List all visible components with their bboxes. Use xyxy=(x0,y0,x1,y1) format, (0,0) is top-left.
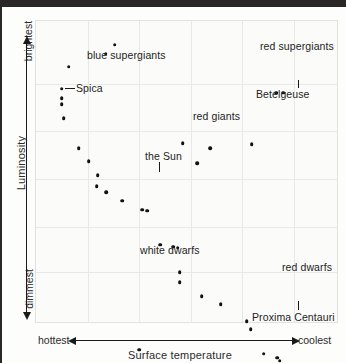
annotation-leader-line xyxy=(159,162,160,172)
x-axis-arrow-line xyxy=(75,340,293,341)
data-point xyxy=(145,209,149,213)
gridline-vertical xyxy=(88,21,89,322)
data-point xyxy=(200,294,204,298)
gridline-vertical xyxy=(294,21,295,322)
x-axis-arrow-head-left xyxy=(68,337,76,345)
annotation-label: red giants xyxy=(193,110,240,122)
data-point xyxy=(60,87,64,91)
data-point xyxy=(195,161,199,165)
data-point xyxy=(137,348,141,352)
gridline-vertical xyxy=(242,21,243,322)
scatter-plot-area: blue supergiantsSpicared giantsthe Sunwh… xyxy=(35,20,338,323)
data-point xyxy=(95,184,99,188)
data-point xyxy=(278,359,282,363)
data-point xyxy=(87,159,91,163)
data-point xyxy=(121,199,125,203)
data-point xyxy=(249,327,253,331)
data-point xyxy=(60,103,64,107)
x-axis-title: Surface temperature xyxy=(35,349,325,361)
data-point xyxy=(140,208,144,212)
data-point xyxy=(96,173,100,177)
annotation-label: red dwarfs xyxy=(282,261,332,273)
data-point xyxy=(113,43,117,47)
data-point xyxy=(245,319,249,323)
data-point xyxy=(219,302,223,306)
annotation-leader-line xyxy=(298,301,299,310)
data-point xyxy=(178,271,182,275)
hr-diagram-figure: Luminosity brightest dimmest Surface tem… xyxy=(2,7,346,363)
x-axis-left-label: hottest xyxy=(38,334,70,346)
gridline-horizontal xyxy=(36,227,337,228)
y-axis-arrow-line xyxy=(26,43,27,313)
data-point xyxy=(250,142,254,146)
annotation-leader-line xyxy=(298,80,299,88)
x-axis-arrow-head-right xyxy=(292,337,300,345)
y-axis-bottom-label: dimmest xyxy=(23,259,35,319)
annotation-label: blue supergiants xyxy=(87,49,166,61)
annotation-label: red supergiants xyxy=(260,40,334,52)
data-point xyxy=(181,141,185,145)
data-point xyxy=(262,352,266,356)
annotation-leader-line xyxy=(65,88,75,89)
annotation-label: Betelgeuse xyxy=(256,88,310,100)
data-point xyxy=(67,65,71,69)
data-point xyxy=(77,146,81,150)
annotation-label: white dwarfs xyxy=(140,244,200,256)
data-point xyxy=(178,280,182,284)
gridline-vertical xyxy=(191,21,192,322)
gridline-horizontal xyxy=(36,179,337,180)
data-point xyxy=(208,146,212,150)
data-point xyxy=(62,116,66,120)
y-axis-arrow-head-down xyxy=(23,312,31,320)
y-axis-arrow-head-up xyxy=(23,36,31,44)
annotation-label: the Sun xyxy=(145,150,182,162)
data-point xyxy=(105,190,109,194)
gridline-vertical xyxy=(139,21,140,322)
annotation-label: Spica xyxy=(76,82,103,94)
gridline-horizontal xyxy=(36,131,337,132)
annotation-label: Proxima Centauri xyxy=(252,311,335,323)
data-point xyxy=(60,97,64,101)
page-background: Luminosity brightest dimmest Surface tem… xyxy=(0,0,346,363)
x-axis-right-label: coolest xyxy=(298,334,331,346)
